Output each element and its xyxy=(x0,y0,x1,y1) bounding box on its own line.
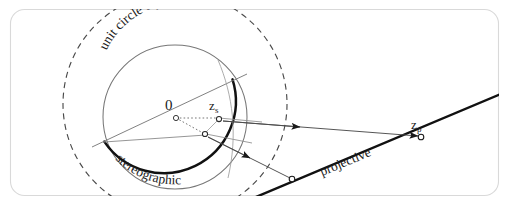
zs-point-marker xyxy=(216,116,221,121)
zp-point-marker xyxy=(418,134,424,140)
stereographic-projective-diagram: unit circle equator stereographic projec… xyxy=(0,0,515,216)
figure-root: unit circle equator stereographic projec… xyxy=(0,0,515,216)
projective-low-point-marker xyxy=(289,176,295,182)
midpoint-marker xyxy=(202,131,207,136)
label-origin: 0 xyxy=(165,97,173,113)
label-zs-subscript: s xyxy=(215,105,219,115)
figure-frame xyxy=(11,10,499,196)
origin-point-marker xyxy=(173,115,178,120)
label-zp-subscript: p xyxy=(417,124,422,134)
